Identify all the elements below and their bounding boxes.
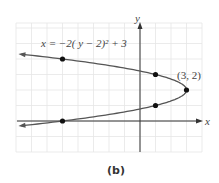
figure-caption: (b): [107, 164, 125, 177]
parabola-chart: x = −2( y − 2)² + 3 (3, 2) x y (b): [0, 0, 219, 183]
data-point: [153, 72, 158, 77]
curve-arrow-top-icon: [18, 52, 25, 57]
vertex-label: (3, 2): [177, 69, 201, 82]
data-point: [153, 103, 158, 108]
data-point: [60, 118, 65, 123]
curve-arrow-bottom-icon: [18, 123, 25, 128]
x-axis-label: x: [204, 115, 210, 127]
equation-label: x = −2( y − 2)² + 3: [40, 37, 127, 50]
data-point: [60, 56, 65, 61]
data-point: [184, 87, 189, 92]
y-axis-label: y: [134, 12, 140, 24]
